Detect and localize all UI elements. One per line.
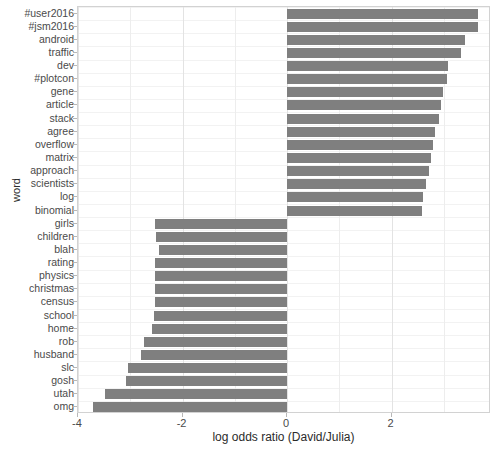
bar: [287, 114, 439, 124]
y-axis-tick-label: census: [0, 296, 74, 306]
bar: [287, 166, 429, 176]
y-axis-tick-mark: [73, 288, 77, 289]
y-axis-tick-mark: [73, 301, 77, 302]
y-axis-tick-label: overflow: [0, 139, 74, 149]
y-axis-tick-mark: [73, 170, 77, 171]
bar: [144, 337, 287, 347]
grid-line-vertical: [78, 7, 79, 412]
bar: [287, 22, 478, 32]
y-axis-tick-label: approach: [0, 165, 74, 175]
y-axis-tick-label: #jsm2016: [0, 21, 74, 31]
y-axis-tick-mark: [73, 275, 77, 276]
y-axis-tick-mark: [73, 144, 77, 145]
bar: [287, 48, 461, 58]
y-axis-tick-label: blah: [0, 244, 74, 254]
bar: [287, 9, 478, 19]
x-axis-tick-mark: [286, 413, 287, 417]
grid-line-vertical: [130, 7, 131, 412]
y-axis-tick-mark: [73, 183, 77, 184]
y-axis-tick-label: android: [0, 34, 74, 44]
y-axis-tick-label: traffic: [0, 47, 74, 57]
y-axis-tick-label: husband: [0, 349, 74, 359]
y-axis-tick-label: scientists: [0, 178, 74, 188]
y-axis-tick-mark: [73, 328, 77, 329]
y-axis-tick-mark: [73, 236, 77, 237]
bar: [287, 206, 422, 216]
x-axis-tick-mark: [77, 413, 78, 417]
y-axis-tick-mark: [73, 315, 77, 316]
y-axis-tick-label: dev: [0, 60, 74, 70]
y-axis-tick-label: physics: [0, 270, 74, 280]
y-axis-tick-label: article: [0, 99, 74, 109]
bar: [154, 311, 287, 321]
bar: [128, 363, 287, 373]
y-axis-tick-mark: [73, 210, 77, 211]
y-axis-tick-mark: [73, 262, 77, 263]
x-axis-title: log odds ratio (David/Julia): [77, 430, 490, 444]
bar: [159, 245, 287, 255]
y-axis-tick-mark: [73, 157, 77, 158]
grid-line-horizontal: [78, 204, 489, 205]
y-axis-tick-mark: [73, 78, 77, 79]
y-axis-tick-mark: [73, 13, 77, 14]
bar: [287, 100, 441, 110]
x-axis-tick-label: -4: [57, 417, 97, 429]
x-axis-tick-label: 2: [371, 417, 411, 429]
y-axis-tick-mark: [73, 131, 77, 132]
y-axis-tick-mark: [73, 26, 77, 27]
y-axis-tick-mark: [73, 393, 77, 394]
y-axis-tick-mark: [73, 249, 77, 250]
bar: [141, 350, 287, 360]
x-axis-tick-mark: [182, 413, 183, 417]
y-axis-tick-label: children: [0, 231, 74, 241]
bar: [105, 389, 287, 399]
bar: [155, 271, 287, 281]
bar: [126, 376, 287, 386]
y-axis-tick-label: #user2016: [0, 8, 74, 18]
y-axis-tick-label: gene: [0, 86, 74, 96]
y-axis-tick-mark: [73, 223, 77, 224]
y-axis-tick-label: gosh: [0, 375, 74, 385]
y-axis-tick-mark: [73, 196, 77, 197]
y-axis-tick-mark: [73, 367, 77, 368]
y-axis-tick-mark: [73, 104, 77, 105]
bar: [287, 35, 465, 45]
bar: [155, 284, 287, 294]
y-axis-tick-label: agree: [0, 126, 74, 136]
bar: [287, 74, 446, 84]
bar: [287, 127, 434, 137]
grid-line-horizontal: [78, 191, 489, 192]
y-axis-tick-label: rob: [0, 336, 74, 346]
y-axis-tick-label: girls: [0, 218, 74, 228]
y-axis-tick-label: omg: [0, 401, 74, 411]
y-axis-tick-label: school: [0, 310, 74, 320]
y-axis-tick-mark: [73, 65, 77, 66]
bar: [287, 192, 423, 202]
y-axis-tick-mark: [73, 341, 77, 342]
y-axis-tick-mark: [73, 354, 77, 355]
y-axis-tick-mark: [73, 91, 77, 92]
bar: [287, 61, 447, 71]
y-axis-tick-mark: [73, 406, 77, 407]
bar: [152, 324, 287, 334]
y-axis-tick-label: slc: [0, 362, 74, 372]
bar: [287, 87, 443, 97]
bar: [93, 402, 287, 412]
y-axis-tick-label: #plotcon: [0, 73, 74, 83]
bar: [287, 179, 426, 189]
y-axis-tick-label: utah: [0, 388, 74, 398]
bar: [156, 232, 287, 242]
y-axis-tick-label: stack: [0, 113, 74, 123]
y-axis-tick-label: home: [0, 323, 74, 333]
y-axis-tick-mark: [73, 39, 77, 40]
x-axis-tick-mark: [391, 413, 392, 417]
y-axis-tick-mark: [73, 380, 77, 381]
y-axis-tick-label: rating: [0, 257, 74, 267]
chart-figure: word #user2016#jsm2016androidtrafficdev#…: [0, 0, 497, 454]
bar: [287, 140, 433, 150]
grid-line-horizontal: [78, 178, 489, 179]
y-axis-tick-label: binomial: [0, 205, 74, 215]
y-axis-tick-mark: [73, 52, 77, 53]
y-axis-tick-label: log: [0, 191, 74, 201]
bar: [155, 297, 287, 307]
